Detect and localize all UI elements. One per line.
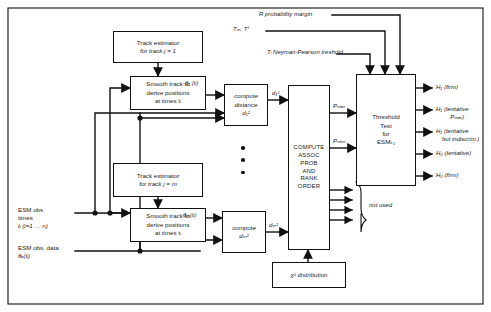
smooth-track-1-line1: Smooth track to: [146, 80, 189, 88]
label-p-next: Pₙₑₓₜ: [333, 138, 346, 146]
compute-distance-1-line3: d₁²: [242, 109, 249, 117]
box-compute-assoc[interactable]: COMPUTE ASSOC PROB AND RANK ORDER: [288, 85, 330, 250]
box-compute-distance-1[interactable]: compute distance d₁²: [224, 84, 268, 126]
label-esm-obs-data: ESM obs. data θₐ(tᵢ): [18, 244, 59, 260]
label-not-used: not used: [369, 202, 392, 210]
track-estimator-1-line1: Track estimator: [137, 39, 179, 47]
smooth-track-1-line2: derive positions: [147, 89, 190, 97]
compute-distance-m-line2: dₘ²: [239, 232, 248, 240]
label-p-max: Pₘₐₓ: [333, 103, 345, 111]
box-track-estimator-1[interactable]: Track estimator for track j = 1: [113, 31, 203, 63]
line-r-margin: [332, 15, 400, 74]
track-estimator-1-line2: for track j = 1: [140, 47, 176, 55]
label-tm-tf: Tₘ, Tᶠ: [233, 26, 249, 34]
box-chi-square-distribution[interactable]: χ² distribution: [272, 262, 346, 288]
compute-distance-1-line2: distance: [234, 101, 257, 109]
compute-assoc-line3: PROB: [300, 160, 318, 168]
threshold-test-line3: for: [382, 130, 389, 138]
label-theta-1: θ₁ (tᵢ): [185, 80, 198, 88]
label-theta-m: θₘ(tᵢ): [183, 212, 196, 220]
box-compute-distance-m[interactable]: compute dₘ²: [222, 211, 266, 253]
label-neyman-pearson-threshold: Tᵢ Neyman-Pearson treshold: [267, 49, 343, 57]
not-used-brace: [356, 182, 366, 232]
threshold-test-line4: ESMₖ₁: [377, 138, 395, 146]
output-label-1: H₁ (firm): [436, 84, 458, 92]
label-r-probability-margin: R probability margin: [259, 11, 312, 19]
smooth-track-m-line3: at times tᵢ: [155, 229, 181, 237]
label-d1-squared: d₁²: [272, 90, 279, 98]
smooth-track-m-line2: derive positions: [147, 221, 190, 229]
compute-assoc-line1: COMPUTE: [294, 144, 325, 152]
line-neyman-pearson: [337, 54, 370, 74]
compute-distance-m-line1: compute: [232, 224, 256, 232]
threshold-test-line2: Test: [380, 122, 391, 130]
box-track-estimator-m[interactable]: Track estimator for track j = m: [113, 163, 203, 197]
label-dm-squared: dₘ²: [269, 222, 278, 230]
compute-assoc-line5: RANK: [300, 175, 317, 183]
threshold-test-line1: Threshold: [372, 113, 400, 121]
box-threshold-test[interactable]: Threshold Test for ESMₖ₁: [356, 74, 416, 186]
output-label-4: H₀ (tentative): [436, 150, 471, 158]
vertical-ellipsis: [240, 146, 246, 174]
smooth-track-1-line3: at times tᵢ: [155, 97, 181, 105]
track-estimator-m-line1: Track estimator: [137, 172, 179, 180]
chi-square-line1: χ² distribution: [290, 271, 327, 279]
label-esm-obs-times: ESM obs times tᵢ (i=1 … n): [18, 206, 48, 230]
output-label-3: H₁ (tentative but indiscrim.): [436, 128, 479, 144]
compute-assoc-line2: ASSOC: [298, 152, 320, 160]
compute-assoc-line4: AND: [302, 168, 315, 176]
compute-assoc-line6: ORDER: [298, 183, 320, 191]
output-label-5: H₀ (firm): [436, 172, 459, 180]
track-estimator-m-line2: for track j = m: [139, 180, 177, 188]
output-label-2: H₁ (tentative Pₘₐₓ): [436, 106, 469, 122]
compute-distance-1-line1: compute: [234, 92, 258, 100]
